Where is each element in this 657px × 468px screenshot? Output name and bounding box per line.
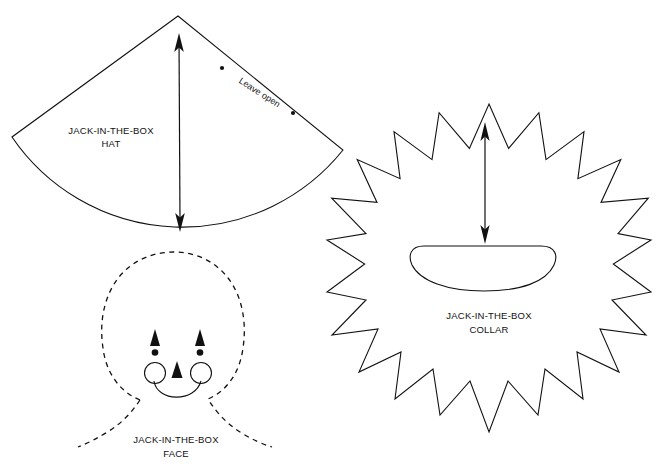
face-label-line2: FACE <box>163 448 189 459</box>
collar-measure-arrow <box>480 122 489 244</box>
left-eye-triangle-icon <box>150 329 160 346</box>
face-label-line1: JACK-IN-THE-BOX <box>133 434 219 445</box>
hat-label-line1: JACK-IN-THE-BOX <box>68 125 154 136</box>
collar-label-line2: COLLAR <box>469 324 508 335</box>
face-left-cheek-circle <box>145 363 166 384</box>
hat-piece[interactable]: Leave open JACK-IN-THE-BOX HAT <box>12 16 343 232</box>
hat-measure-arrow <box>174 33 185 232</box>
face-right-eye <box>195 329 205 356</box>
hat-label: JACK-IN-THE-BOX HAT <box>68 125 154 149</box>
pattern-sheet: Leave open JACK-IN-THE-BOX HAT JACK-I <box>0 0 657 468</box>
leave-open-label: Leave open <box>237 76 282 110</box>
face-nose-triangle-icon <box>172 361 183 378</box>
face-right-cheek-circle <box>191 363 212 384</box>
collar-outline <box>327 104 651 432</box>
leave-open-end-dot <box>291 111 295 115</box>
right-eye-dot <box>197 349 204 356</box>
face-left-eye <box>150 329 160 356</box>
hat-label-line2: HAT <box>102 138 121 149</box>
face-piece[interactable]: JACK-IN-THE-BOX FACE <box>78 252 272 459</box>
hat-leave-open-annotation: Leave open <box>220 66 295 115</box>
face-smile-curve <box>154 381 201 397</box>
collar-piece[interactable]: JACK-IN-THE-BOX COLLAR <box>327 104 651 432</box>
face-outline <box>78 252 272 447</box>
pattern-artboard: Leave open JACK-IN-THE-BOX HAT JACK-I <box>0 0 657 468</box>
collar-center-hole <box>410 246 556 291</box>
face-label: JACK-IN-THE-BOX FACE <box>133 434 219 459</box>
collar-label: JACK-IN-THE-BOX COLLAR <box>446 310 532 335</box>
leave-open-start-dot <box>220 66 224 70</box>
collar-label-line1: JACK-IN-THE-BOX <box>446 310 532 321</box>
right-eye-triangle-icon <box>195 329 205 346</box>
left-eye-dot <box>152 349 159 356</box>
hat-arrow-shaft <box>179 38 180 222</box>
